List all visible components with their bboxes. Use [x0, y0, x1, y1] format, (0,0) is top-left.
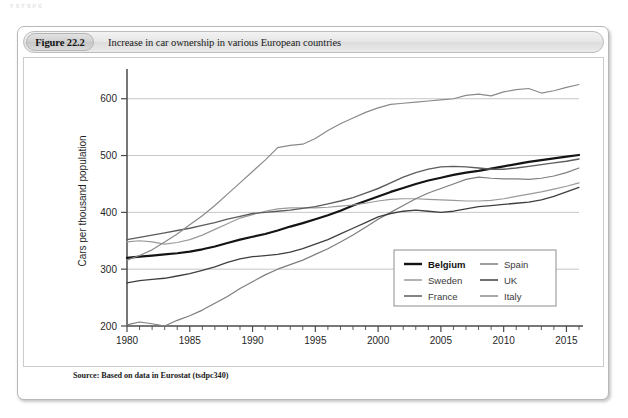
- chart-legend: BelgiumSwedenFranceSpainUKItaly: [394, 250, 556, 306]
- legend-label-belgium: Belgium: [428, 259, 465, 270]
- y-axis-title: Cars per thousand population: [77, 135, 88, 266]
- x-tick-label-2005: 2005: [430, 335, 453, 346]
- x-tick-label-1990: 1990: [241, 335, 264, 346]
- x-tick-label-2015: 2015: [555, 335, 578, 346]
- figure-number-chip: Figure 22.2: [26, 33, 94, 51]
- plot-frame: 200300400500600 198019851990199520002005…: [23, 57, 604, 367]
- bleed-line-1: y g y g p g: [10, 1, 42, 9]
- y-tick-label-200: 200: [100, 321, 117, 332]
- y-tick-label-600: 600: [100, 93, 117, 104]
- x-tick-label-2000: 2000: [367, 335, 390, 346]
- line-chart: 200300400500600 198019851990199520002005…: [24, 58, 603, 366]
- legend-label-sweden: Sweden: [428, 275, 462, 286]
- legend-label-spain: Spain: [504, 259, 528, 270]
- source-note: Source: Based on data in Eurostat (tsdpc…: [73, 371, 228, 380]
- y-tick-label-400: 400: [100, 207, 117, 218]
- y-tick-label-500: 500: [100, 150, 117, 161]
- figure-caption-bar: Figure 22.2 Increase in car ownership in…: [23, 31, 604, 53]
- y-tick-label-300: 300: [100, 264, 117, 275]
- legend-label-france: France: [428, 291, 458, 302]
- figure-panel: Figure 22.2 Increase in car ownership in…: [17, 26, 609, 400]
- x-tick-label-1985: 1985: [179, 335, 202, 346]
- legend-box: [394, 250, 556, 306]
- y-axis-title-text: Cars per thousand population: [77, 135, 88, 266]
- figure-caption-text: Increase in car ownership in various Eur…: [108, 37, 341, 48]
- x-tick-label-1995: 1995: [304, 335, 327, 346]
- x-tick-label-1980: 1980: [116, 335, 139, 346]
- legend-label-uk: UK: [504, 275, 518, 286]
- figure-number-label: Figure 22.2: [35, 37, 84, 48]
- legend-label-italy: Italy: [504, 291, 522, 302]
- page-bleed-through: y g y g p g: [0, 0, 628, 24]
- x-tick-label-2010: 2010: [493, 335, 516, 346]
